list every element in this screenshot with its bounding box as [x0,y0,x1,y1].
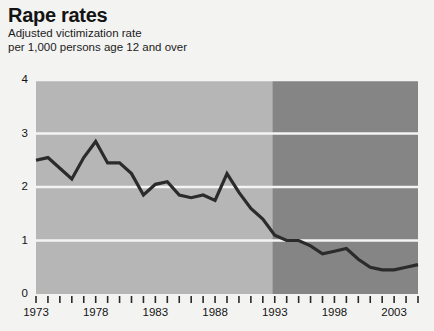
chart-figure: 01234 1973197819831988199319982003 [0,0,434,331]
chart-screenshot: Rape rates Adjusted victimization rate p… [0,0,434,331]
y-tick-label-1: 1 [10,234,28,246]
y-tick-label-2: 2 [10,180,28,192]
x-tick-label-1993: 1993 [255,306,295,318]
x-tick-label-1983: 1983 [135,306,175,318]
x-tick-label-1988: 1988 [195,306,235,318]
y-tick-label-3: 3 [10,127,28,139]
x-tick-label-1978: 1978 [76,306,116,318]
x-tick-label-1998: 1998 [314,306,354,318]
x-axis-ticks [36,296,418,303]
x-tick-label-1973: 1973 [16,306,56,318]
x-tick-label-2003: 2003 [374,306,414,318]
line-chart-plot [0,0,434,331]
y-tick-label-4: 4 [10,73,28,85]
y-tick-label-0: 0 [10,287,28,299]
